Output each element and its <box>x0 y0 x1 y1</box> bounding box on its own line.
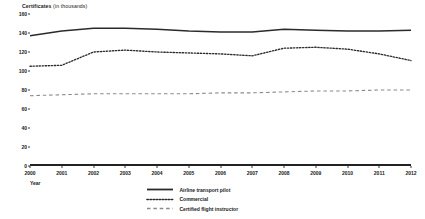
y-axis-title-unit: (in thousands) <box>53 3 87 9</box>
x-axis-tick-label: 2003 <box>120 170 131 176</box>
x-axis-tick-label: 2010 <box>342 170 353 176</box>
y-axis-tick-label: 80 <box>21 87 27 93</box>
legend-label: Airline transport pilot <box>180 187 231 193</box>
legend-line-swatch <box>147 186 173 193</box>
y-axis-title-text: Certificates <box>22 3 52 9</box>
legend-item[interactable]: Airline transport pilot <box>147 186 279 193</box>
series-line <box>30 90 411 96</box>
x-axis-tick-label: 2008 <box>278 170 289 176</box>
y-axis-title: Certificates (in thousands) <box>22 3 87 9</box>
legend-label: Commercial <box>180 196 209 202</box>
x-axis-tick-label: 2000 <box>24 170 35 176</box>
y-axis-tick-label: 120 <box>19 49 27 55</box>
x-axis-tick-mark <box>61 166 62 168</box>
y-axis-tick-label: 20 <box>21 144 27 150</box>
x-axis-tick-mark <box>379 166 380 168</box>
x-axis-tick-mark <box>93 166 94 168</box>
x-axis-tick-mark <box>220 166 221 168</box>
series-line <box>30 47 411 66</box>
x-axis-tick-mark <box>252 166 253 168</box>
y-axis-tick-label: 60 <box>21 106 27 112</box>
y-axis-tick-label: 160 <box>19 11 27 17</box>
legend-item[interactable]: Certified flight instructor <box>147 205 279 212</box>
x-axis-tick-mark <box>411 166 412 168</box>
y-axis-tick-label: 140 <box>19 30 27 36</box>
x-axis-tick-mark <box>315 166 316 168</box>
x-axis-tick-mark <box>347 166 348 168</box>
y-axis-tick-label: 0 <box>24 163 27 169</box>
x-axis-tick-label: 2012 <box>405 170 416 176</box>
legend-line-swatch <box>147 196 173 203</box>
series-layer <box>30 14 411 166</box>
x-axis-tick-label: 2009 <box>310 170 321 176</box>
plot-area: 020406080100120140160 200020012002200320… <box>30 14 411 166</box>
y-axis-tick-label: 40 <box>21 125 27 131</box>
x-axis-tick-label: 2004 <box>151 170 162 176</box>
x-axis-tick-label: 2011 <box>374 170 385 176</box>
x-axis-tick-mark <box>284 166 285 168</box>
x-axis-tick-label: 2006 <box>215 170 226 176</box>
y-axis-tick-label: 100 <box>19 68 27 74</box>
legend-label: Certified flight instructor <box>180 206 239 212</box>
series-line <box>30 28 411 36</box>
x-axis-tick-mark <box>157 166 158 168</box>
legend-line-swatch <box>147 205 173 212</box>
line-chart: Certificates (in thousands) 020406080100… <box>0 0 425 219</box>
x-axis-tick-label: 2002 <box>88 170 99 176</box>
x-axis-tick-label: 2001 <box>56 170 67 176</box>
x-axis-tick-label: 2007 <box>247 170 258 176</box>
x-axis-tick-mark <box>125 166 126 168</box>
x-axis-tick-mark <box>188 166 189 168</box>
legend-item[interactable]: Commercial <box>147 196 279 203</box>
chart-legend: Airline transport pilotCommercialCertifi… <box>0 186 425 212</box>
x-axis-tick-label: 2005 <box>183 170 194 176</box>
x-axis-tick-mark <box>30 166 31 168</box>
